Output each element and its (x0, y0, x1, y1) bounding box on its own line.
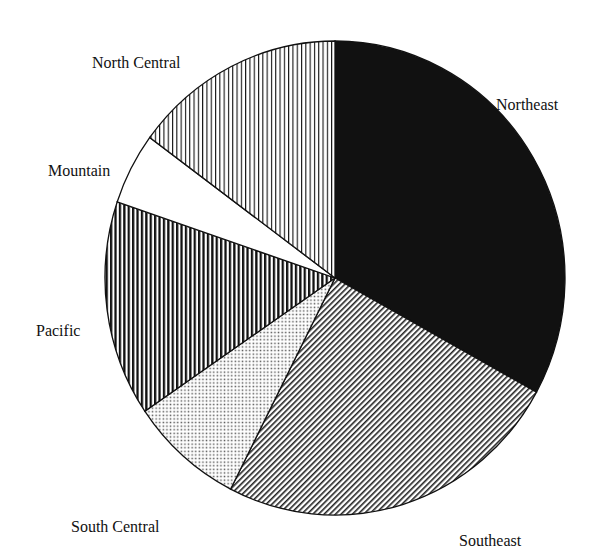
label-southeast: Southeast (459, 533, 521, 549)
label-south-central: South Central (71, 519, 159, 535)
label-pacific: Pacific (36, 323, 80, 339)
label-northeast: Northeast (496, 97, 558, 113)
label-north-central: North Central (92, 55, 180, 71)
label-mountain: Mountain (48, 163, 110, 179)
